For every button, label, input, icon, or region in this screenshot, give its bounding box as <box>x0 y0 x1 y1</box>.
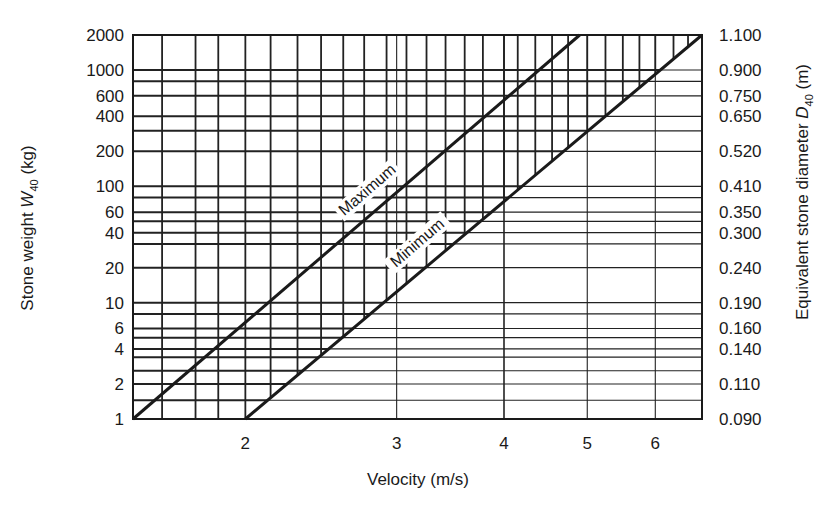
y2-tick-label: 0.160 <box>719 319 762 338</box>
x-axis-tick-labels: 23456 <box>241 434 660 453</box>
y2-axis-title-main: Equivalent stone diameter <box>793 119 812 320</box>
y2-tick-label: 0.090 <box>719 410 762 429</box>
y2-tick-label: 0.410 <box>719 177 762 196</box>
y-axis-title-main: Stone weight <box>18 208 37 311</box>
maximum-line <box>133 35 580 419</box>
y2-tick-label: 0.350 <box>719 203 762 222</box>
y-tick-label: 600 <box>96 87 124 106</box>
y-tick-label: 4 <box>115 340 124 359</box>
y-axis-tick-labels: 12461020406010020040060010002000 <box>86 26 124 429</box>
y-axis-title-unit: (kg) <box>18 145 37 179</box>
grid-lines <box>133 35 702 419</box>
y2-axis-title-unit: (m) <box>793 64 812 94</box>
minimum-line <box>245 35 702 419</box>
y2-axis-title-var: D <box>793 106 812 118</box>
y-tick-label: 200 <box>96 142 124 161</box>
x-tick-label: 2 <box>241 434 250 453</box>
y2-tick-label: 0.140 <box>719 340 762 359</box>
y-tick-label: 1000 <box>86 61 124 80</box>
minimum-label: Minimum <box>387 215 447 270</box>
y-tick-label: 20 <box>105 259 124 278</box>
y-tick-label: 100 <box>96 177 124 196</box>
y2-axis-title: Equivalent stone diameter D40 (m) <box>793 64 815 320</box>
y2-tick-label: 1.100 <box>719 26 762 45</box>
y-tick-label: 10 <box>105 294 124 313</box>
x-axis-title: Velocity (m/s) <box>367 470 469 489</box>
y2-tick-label: 0.900 <box>719 61 762 80</box>
series-labels: MaximumMinimum <box>333 158 452 274</box>
y-tick-label: 2000 <box>86 26 124 45</box>
y-tick-label: 2 <box>115 375 124 394</box>
y-tick-label: 1 <box>115 410 124 429</box>
x-tick-label: 4 <box>499 434 508 453</box>
maximum-label: Maximum <box>335 161 399 219</box>
chart-canvas: 12461020406010020040060010002000 0.0900.… <box>0 0 830 519</box>
y2-axis-tick-labels: 0.0900.1100.1400.1600.1900.2400.3000.350… <box>719 26 762 429</box>
y2-axis-title-sub: 40 <box>803 94 815 106</box>
y-axis-title: Stone weight W40 (kg) <box>18 145 40 310</box>
stone-weight-velocity-chart: 12461020406010020040060010002000 0.0900.… <box>0 0 830 519</box>
x-tick-label: 5 <box>583 434 592 453</box>
y2-tick-label: 0.240 <box>719 259 762 278</box>
y-tick-label: 400 <box>96 107 124 126</box>
x-tick-label: 3 <box>392 434 401 453</box>
x-tick-label: 6 <box>651 434 660 453</box>
y-tick-label: 40 <box>105 224 124 243</box>
y2-tick-label: 0.650 <box>719 107 762 126</box>
y2-tick-label: 0.110 <box>719 375 760 394</box>
y2-tick-label: 0.190 <box>719 294 762 313</box>
y-tick-label: 60 <box>105 203 124 222</box>
y-tick-label: 6 <box>115 319 124 338</box>
y-axis-title-sub: 40 <box>28 179 40 191</box>
y2-tick-label: 0.300 <box>719 224 762 243</box>
y2-tick-label: 0.520 <box>719 142 762 161</box>
y2-tick-label: 0.750 <box>719 87 762 106</box>
